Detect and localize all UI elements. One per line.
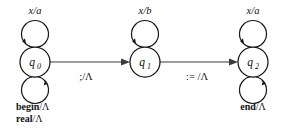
self-loop-q2-bottom	[240, 77, 267, 104]
state-node-q0-subscript: 0	[37, 62, 41, 71]
state-node-q2-name: q	[247, 56, 253, 69]
state-node-q2-circle[interactable]	[238, 47, 268, 77]
self-loop-q2-top	[240, 21, 267, 48]
self-loop-q2-top-label: x/a	[246, 5, 260, 16]
transition-q1-to-q2-arrowhead	[229, 58, 238, 65]
self-loop-q2-bottom-label-1-keyword: end	[240, 101, 256, 112]
self-loop-q0-bottom-label-1: begin/Λ	[16, 101, 50, 112]
self-loop-q0-bottom-label-1-keyword: begin	[16, 101, 40, 112]
state-node-q1-circle[interactable]	[130, 47, 160, 77]
self-loop-q0-bottom-label-2-keyword: real	[16, 113, 33, 124]
self-loop-q1-top	[132, 21, 159, 48]
transition-q0-to-q1	[50, 58, 130, 65]
self-loop-q0-top-label: x/a	[28, 5, 42, 16]
self-loop-q0-top	[22, 21, 49, 48]
transition-q1-to-q2-label: := /Λ	[186, 71, 208, 82]
state-node-q2-subscript: 2	[255, 62, 259, 71]
state-diagram-canvas: x/a x/b x/a ;/Λ	[0, 0, 288, 128]
state-node-q2[interactable]: q 2	[238, 47, 268, 77]
transition-q0-to-q1-label: ;/Λ	[79, 71, 93, 82]
state-node-q1-subscript: 1	[147, 62, 151, 71]
self-loop-q0-bottom-path	[22, 77, 49, 104]
self-loop-q2-bottom-path	[240, 77, 267, 104]
self-loop-q0-bottom-label-2: real/Λ	[16, 113, 43, 124]
transition-q1-to-q2	[160, 58, 238, 65]
state-node-q1-name: q	[139, 56, 145, 69]
self-loop-q1-top-label: x/b	[138, 5, 152, 16]
self-loop-q0-bottom-label-1-output: /Λ	[39, 101, 50, 112]
state-node-q1[interactable]: q 1	[130, 47, 160, 77]
self-loop-q2-bottom-label-1: end/Λ	[240, 101, 266, 112]
transition-q0-to-q1-arrowhead	[121, 58, 130, 65]
state-node-q0-name: q	[29, 56, 35, 69]
self-loop-q0-bottom	[22, 77, 49, 104]
state-diagram-svg: x/a x/b x/a ;/Λ	[0, 0, 288, 128]
self-loop-q2-bottom-label-1-output: /Λ	[256, 101, 267, 112]
state-node-q0-circle[interactable]	[20, 47, 50, 77]
state-node-q0[interactable]: q 0	[20, 47, 50, 77]
self-loop-q0-bottom-label-2-output: /Λ	[32, 113, 43, 124]
